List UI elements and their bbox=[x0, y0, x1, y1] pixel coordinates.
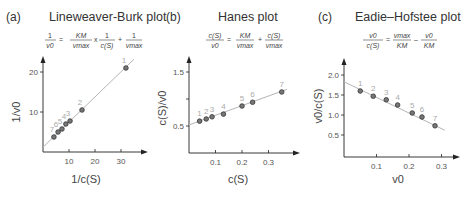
panel-b-data-point bbox=[210, 115, 215, 120]
eq-a-equals: = bbox=[59, 36, 63, 43]
panel-a-data-point bbox=[64, 122, 69, 127]
panel-b-point-label: 1 bbox=[197, 109, 202, 118]
panel-c-ytick-label: 2.0 bbox=[328, 71, 340, 80]
panel-b-equation: c(S) v0 = KM vmax + c(S) vmax bbox=[206, 32, 283, 49]
panel-b-point-label: 4 bbox=[221, 102, 226, 111]
figure: (a) Lineweaver-Burk plot 1 v0 = KM vmax … bbox=[0, 0, 468, 198]
panel-a-xlabel: 1/c(S) bbox=[71, 173, 100, 185]
eq-a-t3-num: 1 bbox=[132, 32, 136, 39]
panel-c-data-point bbox=[420, 115, 425, 120]
eq-a-t1-num: KM bbox=[76, 32, 87, 39]
panel-a-point-label: 3 bbox=[66, 109, 71, 118]
eq-b-t2-den: vmax bbox=[266, 42, 283, 49]
eq-c-t2-num: v0 bbox=[425, 32, 433, 39]
panel-b-data-point bbox=[250, 100, 255, 105]
panel-c-point-label: 4 bbox=[395, 93, 400, 102]
panel-b-xlabel: c(S) bbox=[228, 173, 248, 185]
eq-c-op1: – bbox=[414, 36, 418, 43]
panel-b-data-point bbox=[240, 104, 245, 109]
panel-b-ylabel: c(S)/v0 bbox=[156, 91, 168, 126]
eq-c-lhs-den: c(S) bbox=[367, 42, 380, 50]
panel-a-point-label: 7 bbox=[50, 125, 55, 134]
panel-b-xtick-label: 0.2 bbox=[236, 158, 248, 167]
eq-a-op2: + bbox=[118, 36, 122, 43]
eq-a-lhs-den: v0 bbox=[46, 42, 54, 49]
plots-layer: 102030102012345670.10.20.30.51.512345670… bbox=[29, 56, 460, 171]
panel-c-equation: v0 c(S) = vmax KM – v0 KM bbox=[363, 32, 437, 50]
eq-b-equals: = bbox=[227, 36, 231, 43]
eq-a-t1-den: vmax bbox=[73, 42, 90, 49]
eq-c-lhs-num: v0 bbox=[369, 32, 377, 39]
panel-c-point-label: 1 bbox=[358, 79, 363, 88]
panel-c-ytick-label: 1.0 bbox=[328, 111, 340, 120]
panel-b-x-arrow bbox=[293, 151, 300, 156]
panel-c-point-label: 2 bbox=[371, 84, 376, 93]
panel-c-ytick-label: 1.5 bbox=[328, 91, 340, 100]
eq-c-t2-den: KM bbox=[424, 42, 435, 49]
panel-c-title: Eadie–Hofstee plot bbox=[355, 10, 461, 24]
eq-b-t1-den: vmax bbox=[237, 42, 254, 49]
eq-a-lhs-num: 1 bbox=[48, 32, 52, 39]
panel-a-xtick-label: 30 bbox=[117, 157, 126, 166]
panel-b-point-label: 5 bbox=[240, 94, 245, 103]
panel-b-y-arrow bbox=[187, 56, 192, 63]
eq-b-lhs-den: v0 bbox=[211, 42, 219, 49]
panel-b-xtick-label: 0.1 bbox=[210, 158, 222, 167]
panel-b-ytick-label: 1.5 bbox=[173, 68, 185, 77]
panel-b-ytick-label: 0.5 bbox=[173, 122, 185, 131]
panel-b-data-point bbox=[197, 119, 202, 124]
panel-c-y-arrow bbox=[342, 58, 347, 65]
panel-a-xtick-label: 20 bbox=[91, 157, 100, 166]
panel-a-equation: 1 v0 = KM vmax x 1 c(S) + 1 vmax bbox=[45, 32, 143, 50]
panel-b-data-point bbox=[279, 90, 284, 95]
panel-c-point-label: 5 bbox=[410, 101, 415, 110]
panel-b-xtick-label: 0.3 bbox=[263, 158, 275, 167]
panel-c-xtick-label: 0.1 bbox=[371, 162, 383, 171]
panel-a-y-arrow bbox=[41, 56, 46, 63]
eq-b-op1: + bbox=[258, 36, 262, 43]
panel-a-data-point bbox=[124, 66, 129, 71]
panel-a-label: (a) bbox=[6, 10, 21, 24]
eq-c-t1-den: KM bbox=[397, 42, 408, 49]
panel-c-data-point bbox=[433, 124, 438, 129]
panel-b-point-label: 3 bbox=[210, 105, 215, 114]
panel-b-point-label: 7 bbox=[280, 80, 285, 89]
panel-a-point-label: 2 bbox=[78, 98, 83, 107]
panel-c-x-arrow bbox=[453, 155, 460, 160]
panel-a-ytick-label: 20 bbox=[29, 68, 38, 77]
panel-c-ytick-label: 0.5 bbox=[328, 131, 340, 140]
panel-b-title: Hanes plot bbox=[218, 10, 278, 24]
panel-c-xtick-label: 0.2 bbox=[403, 162, 415, 171]
eq-b-lhs-num: c(S) bbox=[209, 32, 222, 40]
panel-a-ytick-label: 10 bbox=[29, 108, 38, 117]
panel-a-ylabel: 1/v0 bbox=[10, 102, 22, 123]
panel-a-data-point bbox=[56, 130, 61, 135]
eq-a-t3-den: vmax bbox=[126, 42, 143, 49]
panel-a-title: Lineweaver-Burk plot bbox=[49, 10, 167, 24]
panel-c-point-label: 3 bbox=[384, 88, 389, 97]
eq-c-t1-num: vmax bbox=[394, 32, 411, 39]
panel-c-data-point bbox=[395, 103, 400, 108]
panel-b-data-point bbox=[204, 117, 209, 122]
panel-c-xlabel: v0 bbox=[392, 173, 404, 185]
panel-a-x-arrow bbox=[141, 150, 148, 155]
panel-b-data-point bbox=[221, 112, 226, 117]
panel-a-data-point bbox=[80, 108, 85, 113]
panel-a-point-label: 6 bbox=[54, 120, 59, 129]
eq-c-equals: = bbox=[386, 36, 390, 43]
panel-a-data-point bbox=[68, 119, 73, 124]
panel-c-data-point bbox=[358, 89, 363, 94]
panel-c-data-point bbox=[410, 111, 415, 116]
panel-c-ylabel: v0/c(S) bbox=[312, 89, 324, 124]
panel-b-point-label: 2 bbox=[204, 107, 209, 116]
panel-c-point-label: 6 bbox=[420, 105, 425, 114]
eq-b-t1-num: KM bbox=[240, 32, 251, 39]
eq-a-op1: x bbox=[94, 36, 98, 43]
panel-a-xtick-label: 10 bbox=[65, 157, 74, 166]
eq-b-t2-num: c(S) bbox=[268, 32, 281, 40]
panel-a-point-label: 5 bbox=[58, 117, 63, 126]
panel-a-data-point bbox=[52, 135, 57, 140]
panel-b-label: (b) bbox=[166, 10, 181, 24]
panel-b-point-label: 6 bbox=[250, 90, 255, 99]
panel-c-data-point bbox=[384, 98, 389, 103]
